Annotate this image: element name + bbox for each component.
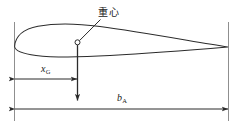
xg-dimension-label: xG [41,64,50,74]
cg-marker-circle [75,40,80,45]
diagram-canvas [0,0,244,131]
airfoil-outline [15,24,228,57]
xg-symbol: x [41,63,45,74]
center-of-gravity-label: 重心 [98,8,119,18]
ba-subscript: A [122,97,127,104]
cg-leader-line [80,20,101,41]
xg-subscript: G [46,68,51,75]
ba-dimension-label: bA [117,93,127,103]
airfoil-cg-diagram: 重心 xG bA [0,0,244,131]
